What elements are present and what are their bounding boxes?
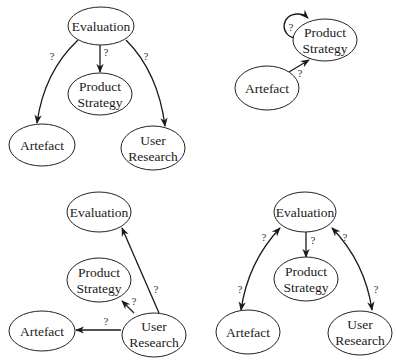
- node-artefact: Artefact: [235, 66, 299, 110]
- edge-label: ?: [311, 234, 316, 246]
- svg-text:Artefact: Artefact: [20, 138, 64, 153]
- svg-text:Product: Product: [78, 265, 120, 280]
- svg-text:Artefact: Artefact: [245, 81, 289, 96]
- node-artefact: Artefact: [216, 310, 280, 354]
- node-product-strategy: Product Strategy: [274, 257, 338, 301]
- svg-text:Strategy: Strategy: [77, 281, 122, 296]
- edge-label: ?: [343, 231, 348, 243]
- edge-label: ?: [132, 295, 137, 307]
- svg-text:User: User: [347, 317, 373, 332]
- svg-text:Evaluation: Evaluation: [72, 19, 131, 34]
- diagram-bottom-right: ? ? ? ? ? Evaluation Product Strategy Ar…: [216, 192, 392, 355]
- svg-text:Product: Product: [79, 79, 121, 94]
- svg-text:Strategy: Strategy: [303, 41, 348, 56]
- edge-label: ?: [289, 21, 294, 33]
- edge-label: ?: [104, 46, 109, 58]
- svg-text:Product: Product: [304, 25, 346, 40]
- node-user-research: User Research: [122, 313, 186, 357]
- svg-text:Product: Product: [285, 264, 327, 279]
- node-artefact: Artefact: [9, 124, 75, 166]
- svg-text:User: User: [140, 133, 166, 148]
- node-product-strategy: Product Strategy: [68, 73, 132, 115]
- svg-text:Research: Research: [335, 333, 385, 348]
- node-evaluation: Evaluation: [67, 192, 131, 232]
- node-product-strategy: Product Strategy: [293, 19, 357, 61]
- svg-text:Research: Research: [128, 149, 178, 164]
- node-product-strategy: Product Strategy: [67, 258, 131, 302]
- svg-text:Evaluation: Evaluation: [276, 205, 335, 220]
- edge-label: ?: [154, 283, 159, 295]
- edge-evaluation-artefact-bidirectional: [241, 228, 280, 310]
- node-user-research: User Research: [328, 311, 392, 355]
- edge-evaluation-user-research-bidirectional: [332, 228, 372, 310]
- edge-label: ?: [374, 283, 379, 295]
- svg-text:User: User: [141, 319, 167, 334]
- node-user-research: User Research: [121, 126, 185, 170]
- edge-label: ?: [238, 283, 243, 295]
- svg-text:Strategy: Strategy: [78, 95, 123, 110]
- edge-label: ?: [50, 50, 55, 62]
- edge-label: ?: [144, 50, 149, 62]
- edge-evaluation-to-artefact: [37, 40, 78, 123]
- diagram-top-right: ? ? Product Strategy Artefact: [235, 14, 357, 110]
- node-artefact: Artefact: [9, 311, 75, 351]
- svg-text:Artefact: Artefact: [226, 325, 270, 340]
- edge-label: ?: [104, 315, 109, 327]
- svg-text:Strategy: Strategy: [284, 280, 329, 295]
- edge-label: ?: [262, 231, 267, 243]
- diagram-canvas: ? ? ? Evaluation Product Strategy Artefa…: [0, 0, 397, 360]
- node-evaluation: Evaluation: [68, 7, 134, 45]
- edge-label: ?: [298, 67, 303, 79]
- svg-text:Artefact: Artefact: [20, 324, 64, 339]
- node-evaluation: Evaluation: [274, 192, 336, 232]
- svg-text:Research: Research: [129, 335, 179, 350]
- diagram-bottom-left: ? ? ? Evaluation Product Strategy Artefa…: [9, 192, 186, 357]
- diagram-top-left: ? ? ? Evaluation Product Strategy Artefa…: [9, 7, 185, 170]
- svg-text:Evaluation: Evaluation: [70, 205, 129, 220]
